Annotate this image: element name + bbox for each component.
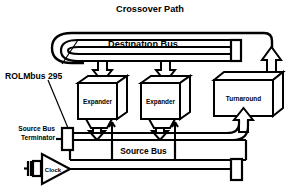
destination-bus-terminator <box>231 40 241 61</box>
turnaround-side-face <box>273 72 283 116</box>
turnaround[interactable]: Turnaround <box>214 72 283 116</box>
source-bus-terminator <box>56 128 73 150</box>
rolmbus-label: ROLMbus 295 <box>5 71 63 81</box>
solid-arrow-up-into-expander-right <box>172 122 178 140</box>
clock-group[interactable]: Clock <box>24 154 70 184</box>
turnaround-top-face <box>214 72 283 80</box>
source-bus-terminator-label-line2: Terminator <box>21 134 55 141</box>
crystal-plates-icon <box>28 161 31 176</box>
source-bus-label: Source Bus <box>120 146 167 156</box>
bus-architecture-diagram: Expander Expander Turnaround <box>0 0 298 188</box>
expander-left-bottom-connector <box>86 119 115 140</box>
crystal-icon <box>33 161 41 176</box>
expander-right-neck <box>149 119 175 128</box>
source-bus-group: Source Bus <box>70 140 246 160</box>
clock-line-group <box>70 159 242 180</box>
source-bus-terminator-box <box>62 128 73 150</box>
destination-bus-label: Destination Bus <box>108 39 178 49</box>
expander-left-neck <box>86 119 112 128</box>
leader-to-source-bus-terminator <box>48 80 68 128</box>
expander-left-label: Expander <box>83 98 113 106</box>
expander-right-side-face <box>180 76 190 119</box>
expander-right-label: Expander <box>146 98 176 106</box>
expander-left[interactable]: Expander <box>78 76 127 119</box>
source-bus-terminator-label-line1: Source Bus <box>18 125 55 132</box>
expander-left-side-face <box>117 76 127 119</box>
diagram-root: Expander Expander Turnaround <box>0 0 298 188</box>
destination-bus-terminator-box <box>231 40 241 61</box>
arrow-turnaround-to-crossover <box>262 47 281 72</box>
hollow-arrow-up-turnaround-out <box>262 47 281 72</box>
crossover-path-label: Crossover Path <box>116 4 184 14</box>
clock-label: Clock <box>45 167 62 173</box>
turnaround-label: Turnaround <box>226 95 261 102</box>
expander-right-bottom-connector <box>149 119 178 140</box>
solid-arrow-up-into-expander-left <box>109 122 115 140</box>
clock-line-terminator-box <box>231 159 242 180</box>
expander-right[interactable]: Expander <box>141 76 190 119</box>
